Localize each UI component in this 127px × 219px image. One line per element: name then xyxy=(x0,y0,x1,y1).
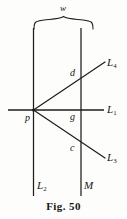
figure-50: w p d g c L4 L1 L3 L2 M Fig. 50 xyxy=(0,0,127,219)
ray-label-L1: L1 xyxy=(107,104,117,115)
figure-caption: Fig. 50 xyxy=(0,200,127,212)
ray-label-L3-subscript: 3 xyxy=(113,157,116,164)
width-brace xyxy=(34,17,93,30)
ray-label-L1-subscript: 1 xyxy=(113,109,116,116)
point-label-g: g xyxy=(70,112,75,122)
width-label-w: w xyxy=(60,4,66,13)
source-point-marker xyxy=(32,109,35,112)
ray-label-L3: L3 xyxy=(107,152,117,163)
ray-label-L4-subscript: 4 xyxy=(113,62,116,69)
ray-label-L4: L4 xyxy=(107,57,117,68)
point-label-p: p xyxy=(25,113,30,123)
point-label-c: c xyxy=(70,143,74,153)
line-label-L2: L2 xyxy=(37,180,47,191)
line-label-M: M xyxy=(84,180,93,191)
line-label-L2-subscript: 2 xyxy=(43,185,46,192)
point-label-d: d xyxy=(70,68,75,78)
